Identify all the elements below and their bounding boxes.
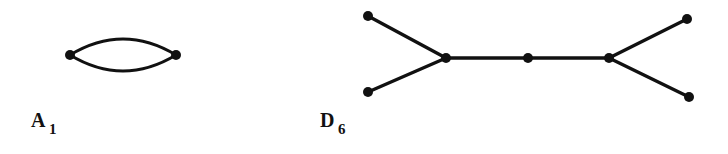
d6-node-right-fork (604, 53, 614, 63)
diagram-label-d6: D6 (320, 110, 342, 130)
a1-edge-upper (70, 39, 176, 55)
diagram-canvas (0, 0, 728, 154)
d6-edge-lower-right (609, 58, 689, 97)
d6-edge-lower-left (368, 58, 446, 92)
a1-node-left (65, 50, 75, 60)
d6-node-lower-right (684, 92, 694, 102)
figure-root: A1 D6 (0, 0, 728, 154)
d6-node-upper-right (682, 14, 692, 24)
diagram-label-d6-base: D (320, 109, 335, 131)
d6-node-lower-left (363, 87, 373, 97)
d6-node-upper-left (363, 11, 373, 21)
diagram-d6 (363, 11, 694, 102)
d6-edge-upper-left (368, 16, 446, 58)
d6-node-center (523, 53, 533, 63)
diagram-label-d6-subscript: 6 (338, 121, 346, 137)
diagram-label-a1-base: A (31, 109, 46, 131)
d6-node-left-fork (441, 53, 451, 63)
diagram-a1 (65, 39, 181, 71)
diagram-label-a1: A1 (31, 110, 53, 130)
a1-edge-lower (70, 55, 176, 71)
a1-node-right (171, 50, 181, 60)
diagram-label-a1-subscript: 1 (49, 121, 57, 137)
d6-edge-upper-right (609, 19, 687, 58)
